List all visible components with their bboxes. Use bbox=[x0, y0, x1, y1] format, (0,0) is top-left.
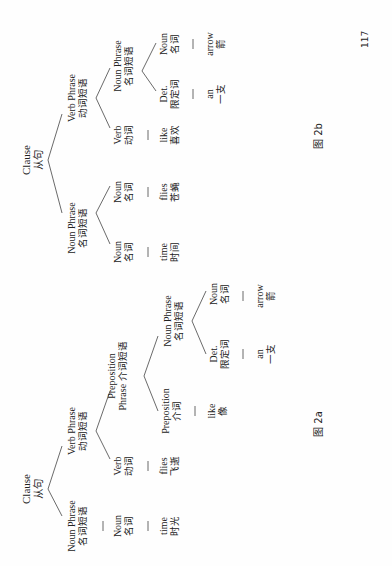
fig2a-clause-node: Clause从句 bbox=[20, 474, 44, 504]
fig2a-preposition-node: Preposition介词 bbox=[160, 388, 182, 434]
fig2a-preposition-phrase-node: Preposition Phrase 介词短语 bbox=[106, 341, 128, 410]
book-page: 117 Clause从句 Noun Phrase名词短语 Verb Phrase… bbox=[0, 0, 392, 566]
fig2a-noun-node: Noun名词 bbox=[112, 515, 134, 537]
fig2a-word-like: like像 bbox=[206, 404, 228, 419]
figure-2a-edges bbox=[0, 0, 392, 566]
fig2a-verb-phrase-node: Verb Phrase动词短语 bbox=[66, 407, 88, 455]
fig2a-noun-node-2: Noun名词 bbox=[208, 283, 230, 305]
fig2a-det-node: Det.限定词 bbox=[208, 339, 230, 369]
fig2a-word-time: time时光 bbox=[158, 516, 180, 536]
fig2a-word-an: an一支 bbox=[254, 344, 276, 364]
fig2a-verb-node: Verb动词 bbox=[112, 456, 134, 476]
fig2a-word-flies: flies飞逝 bbox=[158, 456, 180, 476]
fig2a-word-arrow: arrow箭 bbox=[254, 284, 276, 307]
fig2a-noun-phrase-node-2: Noun Phrase名词短语 bbox=[162, 295, 184, 346]
figure-2a-caption: 图 2a bbox=[310, 411, 325, 437]
fig2a-noun-phrase-node: Noun Phrase名词短语 bbox=[66, 500, 88, 551]
